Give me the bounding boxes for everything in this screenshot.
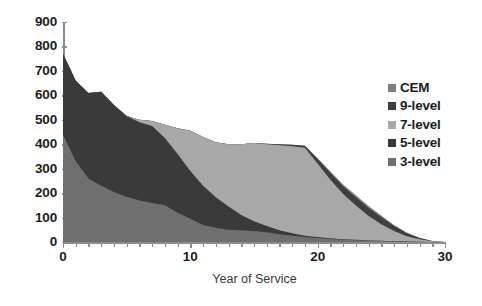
stacked-area-chart: 0100200300400500600700800900 0102030 Yea… (0, 0, 482, 306)
x-tick-mark-minor (254, 243, 255, 247)
x-tick-mark-minor (88, 243, 89, 247)
x-tick-mark-minor (165, 243, 166, 247)
legend-item-cem[interactable]: CEM (388, 79, 441, 96)
legend-item-9-level[interactable]: 9-level (388, 98, 441, 115)
x-tick-mark-minor (203, 243, 204, 247)
legend-label: CEM (400, 81, 429, 95)
x-tick-mark-major (318, 243, 319, 248)
x-tick-mark-minor (178, 243, 179, 247)
legend-swatch-icon (388, 102, 396, 110)
legend-label: 3-level (400, 155, 441, 169)
x-tick-mark-minor (267, 243, 268, 247)
x-tick-mark-minor (152, 243, 153, 247)
x-tick-mark-minor (229, 243, 230, 247)
x-tick-mark-minor (356, 243, 357, 247)
x-tick-mark-minor (407, 243, 408, 247)
x-tick-mark-major (63, 243, 64, 248)
x-tick-mark-minor (394, 243, 395, 247)
legend-item-5-level[interactable]: 5-level (388, 135, 441, 152)
x-tick-mark-minor (305, 243, 306, 247)
chart-legend: CEM9-level7-level5-level3-level (388, 79, 441, 172)
legend-label: 5-level (400, 136, 441, 150)
legend-swatch-icon (388, 139, 396, 147)
x-tick-label: 30 (420, 250, 470, 264)
legend-item-7-level[interactable]: 7-level (388, 116, 441, 133)
legend-swatch-icon (388, 84, 396, 92)
x-tick-label: 10 (165, 250, 215, 264)
x-tick-mark-minor (216, 243, 217, 247)
x-tick-label: 20 (293, 250, 343, 264)
x-tick-mark-minor (292, 243, 293, 247)
x-tick-mark-minor (432, 243, 433, 247)
legend-label: 9-level (400, 99, 441, 113)
x-tick-mark-minor (76, 243, 77, 247)
x-tick-mark-minor (241, 243, 242, 247)
x-tick-mark-major (445, 243, 446, 248)
x-tick-mark-minor (139, 243, 140, 247)
x-tick-mark-minor (369, 243, 370, 247)
x-tick-mark-minor (279, 243, 280, 247)
legend-item-3-level[interactable]: 3-level (388, 153, 441, 170)
x-tick-mark-minor (101, 243, 102, 247)
x-tick-mark-minor (114, 243, 115, 247)
x-tick-mark-major (190, 243, 191, 248)
legend-swatch-icon (388, 121, 396, 129)
x-tick-mark-minor (381, 243, 382, 247)
x-tick-mark-minor (330, 243, 331, 247)
x-axis-title: Year of Service (63, 272, 446, 286)
x-tick-mark-minor (127, 243, 128, 247)
x-tick-mark-minor (343, 243, 344, 247)
legend-swatch-icon (388, 158, 396, 166)
legend-label: 7-level (400, 118, 441, 132)
x-tick-label: 0 (38, 250, 88, 264)
x-tick-mark-minor (420, 243, 421, 247)
